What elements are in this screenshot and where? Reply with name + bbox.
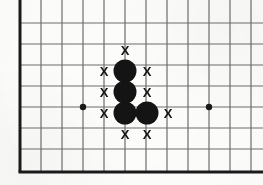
liberty-mark-x: X <box>121 43 130 58</box>
star-point-2 <box>206 104 212 110</box>
black-stone <box>114 102 137 125</box>
liberty-mark-x: X <box>143 64 152 79</box>
go-board-diagram: XXXXXXXXX <box>0 0 263 185</box>
liberty-mark-x: X <box>100 85 109 100</box>
liberty-mark-x: X <box>100 64 109 79</box>
star-point-1 <box>80 104 86 110</box>
liberty-mark-x: X <box>143 127 152 142</box>
black-stone <box>114 81 137 104</box>
liberty-mark-x: X <box>143 85 152 100</box>
black-stone <box>136 102 159 125</box>
liberty-mark-x: X <box>164 106 173 121</box>
liberty-mark-x: X <box>121 127 130 142</box>
board-canvas: XXXXXXXXX <box>0 0 263 185</box>
liberty-mark-x: X <box>100 106 109 121</box>
black-stone <box>114 60 137 83</box>
